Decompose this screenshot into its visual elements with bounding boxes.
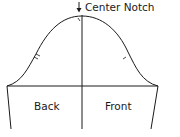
arrow-down-icon bbox=[77, 2, 82, 13]
front-side-seam bbox=[151, 86, 158, 129]
center-notch-label: Center Notch bbox=[85, 1, 155, 13]
sleeve-pattern-diagram: Center Notch Back Front bbox=[0, 0, 180, 137]
back-region-label: Back bbox=[34, 100, 60, 112]
front-region-label: Front bbox=[105, 100, 132, 112]
back-side-seam bbox=[7, 86, 11, 129]
center-notch-mark bbox=[78, 18, 80, 21]
front-single-notch bbox=[123, 57, 126, 59]
